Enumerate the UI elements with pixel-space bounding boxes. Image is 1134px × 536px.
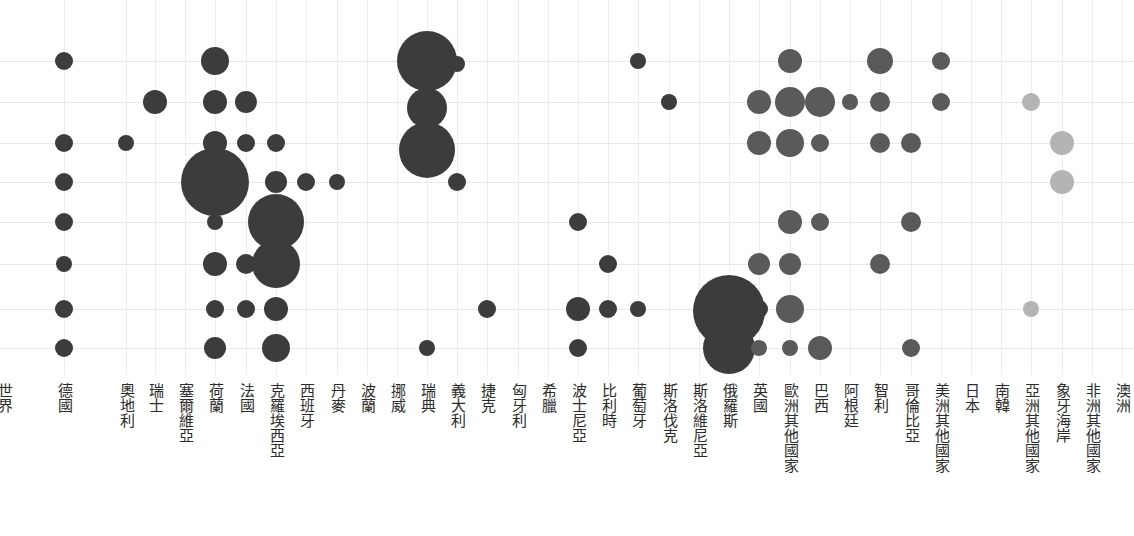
- bubble-point[interactable]: [630, 53, 646, 69]
- bubble-point[interactable]: [206, 300, 224, 318]
- bubble-point[interactable]: [55, 300, 73, 318]
- bubble-point[interactable]: [630, 301, 646, 317]
- x-axis-tick-label: 南韓: [993, 383, 1009, 413]
- x-axis-tick-label: 捷克: [479, 383, 495, 413]
- bubble-point[interactable]: [55, 173, 73, 191]
- bubble-point[interactable]: [870, 133, 890, 153]
- bubble-point[interactable]: [204, 337, 226, 359]
- x-axis-tick-label: 德國: [56, 383, 72, 413]
- bubble-point[interactable]: [779, 253, 801, 275]
- x-axis-tick-label: 斯洛伐克: [661, 383, 677, 443]
- bubble-point[interactable]: [1022, 93, 1040, 111]
- bubble-point[interactable]: [778, 210, 802, 234]
- bubble-point[interactable]: [776, 129, 804, 157]
- bubble-point[interactable]: [932, 52, 950, 70]
- bubble-point[interactable]: [747, 90, 771, 114]
- x-axis-tick-label: 西班牙: [298, 383, 314, 428]
- bubble-point[interactable]: [703, 322, 755, 374]
- x-axis-tick-label: 葡萄牙: [630, 383, 646, 428]
- bubble-point[interactable]: [776, 295, 804, 323]
- x-axis-tick-label: 非洲其他國家: [1084, 383, 1100, 473]
- bubble-point[interactable]: [55, 339, 73, 357]
- x-axis-tick-label: 哥倫比亞: [903, 383, 919, 443]
- bubble-point[interactable]: [118, 135, 134, 151]
- bubble-point[interactable]: [297, 173, 315, 191]
- x-axis-label-row: 世界德國奧地利瑞士塞爾維亞荷蘭法國克羅埃西亞西班牙丹麥波蘭挪威瑞典義大利捷克匈牙…: [0, 375, 1134, 536]
- bubble-point[interactable]: [748, 253, 770, 275]
- bubble-point[interactable]: [1050, 170, 1074, 194]
- bubble-point[interactable]: [203, 252, 227, 276]
- bubble-point[interactable]: [805, 87, 835, 117]
- bubble-point[interactable]: [329, 174, 345, 190]
- bubble-point[interactable]: [478, 300, 496, 318]
- x-axis-tick-label: 智利: [872, 383, 888, 413]
- bubble-point[interactable]: [1050, 131, 1074, 155]
- bubble-point[interactable]: [143, 90, 167, 114]
- bubble-point[interactable]: [1023, 301, 1039, 317]
- x-axis-tick-label: 匈牙利: [510, 383, 526, 428]
- plot-area: [0, 0, 1134, 375]
- bubble-point[interactable]: [747, 131, 771, 155]
- bubble-point[interactable]: [267, 134, 285, 152]
- bubble-point[interactable]: [569, 213, 587, 231]
- bubble-point[interactable]: [778, 49, 802, 73]
- bubble-point[interactable]: [782, 340, 798, 356]
- bubble-point[interactable]: [599, 300, 617, 318]
- x-axis-tick-label: 奧地利: [118, 383, 134, 428]
- bubble-point[interactable]: [207, 214, 223, 230]
- bubble-point[interactable]: [55, 52, 73, 70]
- x-axis-tick-label: 瑞典: [419, 383, 435, 413]
- bubble-point[interactable]: [901, 212, 921, 232]
- bubble-point[interactable]: [901, 133, 921, 153]
- x-axis-tick-label: 阿根廷: [842, 383, 858, 428]
- bubble-point[interactable]: [265, 171, 287, 193]
- bubble-point[interactable]: [750, 300, 768, 318]
- x-axis-tick-label: 日本: [963, 383, 979, 413]
- bubble-point[interactable]: [751, 340, 767, 356]
- bubble-point[interactable]: [181, 148, 249, 216]
- x-axis-tick-label: 法國: [238, 383, 254, 413]
- x-axis-tick-label: 俄羅斯: [721, 383, 737, 428]
- bubble-point[interactable]: [599, 255, 617, 273]
- bubble-point[interactable]: [808, 336, 832, 360]
- x-axis-tick-label: 波士尼亞: [570, 383, 586, 443]
- bubble-point[interactable]: [237, 134, 255, 152]
- x-axis-tick-label: 挪威: [389, 383, 405, 413]
- x-axis-tick-label: 比利時: [600, 383, 616, 428]
- bubble-point[interactable]: [56, 256, 72, 272]
- bubble-point[interactable]: [449, 56, 465, 72]
- x-axis-tick-label: 塞爾維亞: [177, 383, 193, 443]
- x-axis-tick-label: 美洲其他國家: [933, 383, 949, 473]
- bubble-point[interactable]: [569, 339, 587, 357]
- bubble-point[interactable]: [870, 92, 890, 112]
- x-axis-tick-label: 克羅埃西亞: [268, 383, 284, 458]
- bubble-point[interactable]: [235, 91, 257, 113]
- x-axis-tick-label: 丹麥: [329, 383, 345, 413]
- bubble-point[interactable]: [55, 134, 73, 152]
- bubble-point[interactable]: [661, 94, 677, 110]
- bubble-point[interactable]: [867, 48, 893, 74]
- bubble-point[interactable]: [448, 173, 466, 191]
- bubble-point[interactable]: [264, 297, 288, 321]
- bubble-layer: [0, 0, 1134, 375]
- bubble-point[interactable]: [811, 213, 829, 231]
- bubble-point[interactable]: [262, 334, 290, 362]
- bubble-point[interactable]: [870, 254, 890, 274]
- x-axis-tick-label: 亞洲其他國家: [1023, 383, 1039, 473]
- bubble-point[interactable]: [201, 47, 229, 75]
- x-axis-tick-label: 世界: [0, 383, 12, 413]
- bubble-point[interactable]: [237, 300, 255, 318]
- bubble-point[interactable]: [566, 297, 590, 321]
- bubble-point[interactable]: [932, 93, 950, 111]
- bubble-point[interactable]: [842, 94, 858, 110]
- bubble-point[interactable]: [902, 339, 920, 357]
- bubble-point[interactable]: [775, 87, 805, 117]
- bubble-point[interactable]: [252, 240, 300, 288]
- bubble-point[interactable]: [811, 134, 829, 152]
- bubble-point[interactable]: [203, 90, 227, 114]
- bubble-point[interactable]: [397, 31, 457, 91]
- bubble-point[interactable]: [55, 213, 73, 231]
- x-axis-tick-label: 瑞士: [147, 383, 163, 413]
- bubble-point[interactable]: [399, 122, 455, 178]
- bubble-point[interactable]: [419, 340, 435, 356]
